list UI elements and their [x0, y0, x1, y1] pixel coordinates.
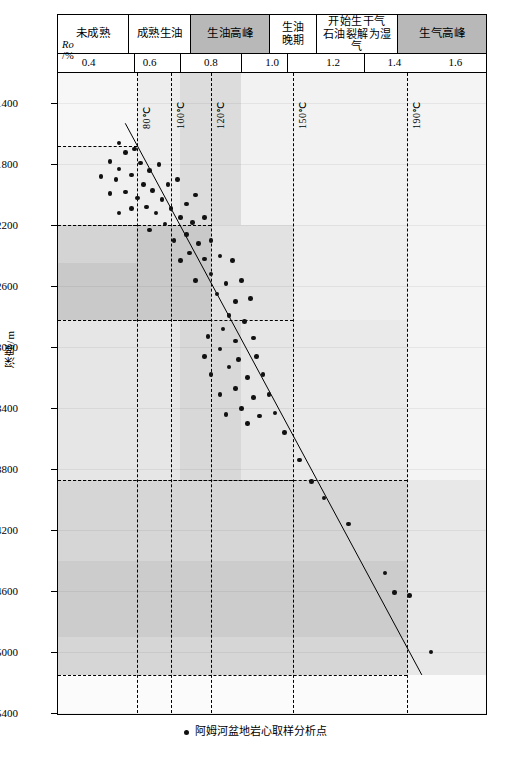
y-tick-mark: [51, 591, 57, 592]
zone-label: 生油 晚期: [282, 21, 305, 46]
data-point: [187, 251, 192, 256]
data-point: [178, 258, 183, 263]
y-tick-label: 2600: [0, 280, 18, 292]
zone-label: 生气高峰: [419, 27, 465, 40]
y-tick-mark: [51, 408, 57, 409]
chart-root: 未成熟 成熟生油 生油高峰 生油 晚期 开始生干气 石油裂解为湿气 生气高峰 R…: [0, 0, 511, 777]
zone-label: 开始生干气 石油裂解为湿气: [317, 15, 397, 53]
data-point: [245, 375, 250, 380]
data-point: [184, 232, 189, 237]
scale-divider: [241, 54, 242, 74]
data-point: [175, 177, 180, 182]
data-point: [233, 386, 238, 391]
data-point: [196, 241, 201, 246]
data-point: [239, 406, 244, 411]
data-point: [239, 278, 244, 283]
y-tick-mark: [51, 530, 57, 531]
ro-tick-label: 1.0: [265, 56, 279, 68]
data-point: [218, 392, 223, 397]
data-point: [135, 196, 140, 201]
y-tick-label: 3000: [0, 341, 18, 353]
data-point: [108, 191, 113, 196]
data-point: [178, 215, 183, 220]
data-point: [242, 319, 247, 324]
data-point: [157, 162, 162, 167]
data-point: [346, 522, 351, 527]
ro-scale-bar: 0.40.60.81.01.21.41.6: [58, 53, 486, 73]
scale-divider: [134, 54, 135, 74]
data-point: [206, 334, 211, 339]
ro-tick-label: 0.6: [143, 56, 157, 68]
maturity-zone-header: 未成熟 成熟生油 生油高峰 生油 晚期 开始生干气 石油裂解为湿气 生气高峰 R…: [57, 14, 487, 73]
zone-label: 成熟生油: [137, 27, 183, 40]
ro-tick-label: 1.6: [449, 56, 463, 68]
data-point: [209, 238, 214, 243]
data-point: [193, 193, 198, 198]
zone-dry-gas-start: 开始生干气 石油裂解为湿气: [317, 15, 398, 53]
y-tick-label: 3400: [0, 402, 18, 414]
data-point: [251, 395, 256, 400]
data-point: [141, 182, 146, 187]
data-point: [248, 296, 253, 301]
y-tick-label: 1800: [0, 158, 18, 170]
data-point: [190, 220, 195, 225]
data-point: [257, 414, 262, 419]
data-point: [150, 188, 155, 193]
data-point: [209, 372, 214, 377]
scale-divider: [364, 54, 365, 74]
data-point: [184, 202, 189, 207]
y-tick-label: 5400: [0, 707, 18, 719]
y-gridline: [58, 713, 487, 714]
y-tick-mark: [51, 164, 57, 165]
y-tick-mark: [51, 713, 57, 714]
ro-tick-label: 1.2: [326, 56, 340, 68]
data-point: [129, 173, 134, 178]
y-tick-mark: [51, 469, 57, 470]
ro-symbol: Ro: [62, 39, 74, 50]
data-point: [245, 421, 250, 426]
zone-label: 生油高峰: [207, 27, 253, 40]
data-point: [123, 150, 128, 155]
data-point: [166, 182, 171, 187]
y-tick-mark: [51, 103, 57, 104]
ro-tick-label: 0.4: [82, 56, 96, 68]
y-tick-label: 1400: [0, 97, 18, 109]
y-tick-mark: [51, 347, 57, 348]
scale-divider: [180, 54, 181, 74]
y-tick-label: 2200: [0, 219, 18, 231]
data-point: [282, 430, 287, 435]
plot-area: 80℃100℃120℃150℃190℃: [57, 73, 487, 715]
data-point: [138, 161, 143, 166]
y-tick-mark: [51, 225, 57, 226]
data-point: [407, 593, 412, 598]
zone-label: 未成熟: [76, 27, 111, 40]
data-point: [202, 257, 207, 262]
data-point: [108, 159, 113, 164]
data-point: [224, 281, 229, 286]
data-point: [233, 299, 238, 304]
data-point: [392, 590, 397, 595]
y-tick-label: 4200: [0, 524, 18, 536]
data-point: [309, 479, 314, 484]
legend: 阿姆河盆地岩心取样分析点: [0, 722, 511, 738]
y-tick-label: 3800: [0, 463, 18, 475]
data-point: [129, 206, 134, 211]
data-point: [297, 458, 302, 463]
data-point: [160, 197, 165, 202]
trend-line: [58, 73, 486, 713]
data-point: [193, 278, 198, 283]
ro-tick-label: 0.8: [204, 56, 218, 68]
y-tick-mark: [51, 652, 57, 653]
y-tick-mark: [51, 286, 57, 287]
zone-oil-peak: 生油高峰: [191, 15, 270, 53]
data-point: [147, 168, 152, 173]
data-point: [202, 354, 207, 359]
legend-marker-icon: [184, 730, 189, 735]
data-point: [123, 190, 128, 195]
data-point: [267, 392, 272, 397]
legend-label: 阿姆河盆地岩心取样分析点: [195, 725, 327, 737]
data-point: [230, 258, 235, 263]
zone-late-oil: 生油 晚期: [270, 15, 317, 53]
y-tick-label: 4600: [0, 585, 18, 597]
data-point: [261, 372, 266, 377]
